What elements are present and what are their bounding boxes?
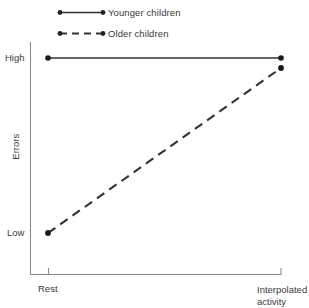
y-axis-title: Errors [11,125,21,169]
data-point-younger-interpolated [278,55,284,61]
legend-swatch-older [58,31,106,36]
data-point-older-interpolated [278,65,284,71]
legend-swatch-younger [58,10,106,15]
legend-label-older-children: Older children [108,29,169,39]
legend-label-younger-children: Younger children [108,8,181,18]
series-line-younger-children [45,55,284,61]
y-axis-label-high: High [5,53,25,63]
x-axis-label-line1: Interpolated [257,284,307,295]
data-point-older-rest [45,230,51,236]
x-axis-label-line2: activity [257,296,286,307]
series-line-older-children [45,65,284,236]
x-axis-label-interpolated-activity: Interpolatedactivity [257,284,309,308]
x-axis-label-rest: Rest [38,284,58,294]
y-axis-label-low: Low [7,228,24,238]
data-point-younger-rest [45,55,51,61]
